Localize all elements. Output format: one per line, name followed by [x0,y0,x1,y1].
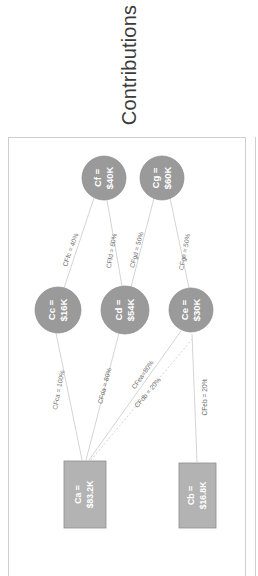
node-name-Cf: Cf = [92,168,103,187]
node-name-Cb: Cb = [186,486,196,505]
node-label-Cd: Cd =$54K [113,299,136,322]
nodes-group: Cf =$40KCg =$60KCc =$16KCd =$54KCe =$30K… [35,156,216,528]
edge-label-CFeb: CFeb = 20% [201,378,208,415]
contributions-diagram-panel: Cf =$40KCg =$60KCc =$16KCd =$54KCe =$30K… [8,137,246,576]
node-value-Cg: $60K [162,167,173,190]
node-value-Cc: $16K [58,299,69,322]
node-label-Ce: Ce =$30K [179,299,202,322]
node-value-Ce: $30K [191,299,202,322]
node-name-Cg: Cg = [150,167,161,188]
node-value-Ca: $83.2K [85,480,95,509]
node-label-Cf: Cf =$40K [92,167,115,190]
page-title: Contributions [118,5,141,125]
node-value-Cf: $40K [104,167,115,190]
adjacent-panel-edge [255,137,258,576]
contribution-graph-svg: Cf =$40KCg =$60KCc =$16KCd =$54KCe =$30K… [9,138,246,576]
node-value-Cb: $16.8K [198,481,208,510]
node-name-Ca: Ca = [73,485,83,503]
node-label-Cc: Cc =$16K [46,299,69,322]
edge-label-CFca: CFca = 100% [51,369,66,410]
node-name-Cd: Cd = [113,299,124,320]
edge-CFeb [192,334,197,462]
node-label-Cg: Cg =$60K [150,167,173,190]
node-value-Cd: $54K [125,299,136,322]
edge-label-CFda: CFda = 80% [96,367,112,405]
node-name-Cc: Cc = [46,299,57,320]
edge-label-CFge: CFge = 50% [177,233,192,271]
title-area: Contributions [0,0,258,130]
node-name-Ce: Ce = [179,299,190,320]
